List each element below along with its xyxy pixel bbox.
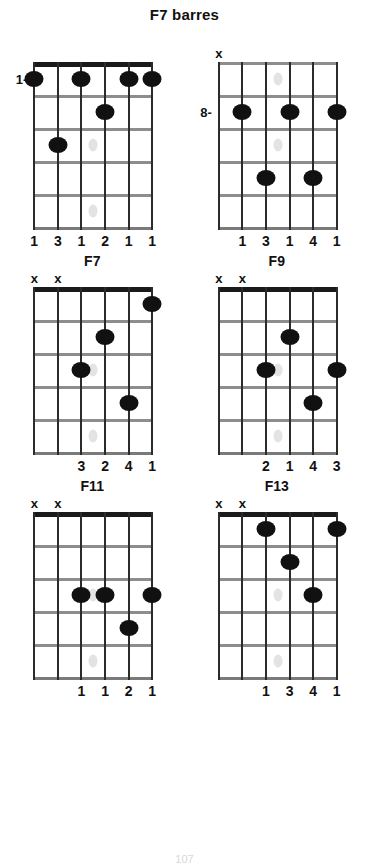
- finger-dot[interactable]: [96, 587, 115, 603]
- finger-number: 2: [125, 681, 133, 701]
- chord-diagram[interactable]: F13xx1341: [185, 476, 369, 701]
- finger-dot[interactable]: [327, 521, 346, 537]
- finger-dot[interactable]: [256, 521, 275, 537]
- chord-diagram[interactable]: 1-131211: [0, 26, 185, 251]
- finger-number: 1: [78, 681, 86, 701]
- finger-dot[interactable]: [72, 587, 91, 603]
- finger-dot[interactable]: [119, 71, 138, 87]
- top-fret-line: [219, 62, 337, 65]
- finger-dot[interactable]: [327, 104, 346, 120]
- finger-number: 4: [125, 456, 133, 476]
- finger-dot[interactable]: [143, 71, 162, 87]
- finger-dot[interactable]: [48, 137, 67, 153]
- finger-number: 2: [262, 456, 270, 476]
- chord-diagram[interactable]: x8-13141: [185, 26, 369, 251]
- muted-string-marker: x: [54, 271, 61, 287]
- fret-line: [219, 128, 337, 131]
- fretboard-wrap: xx1341: [197, 496, 357, 701]
- muted-string-marker: x: [215, 271, 222, 287]
- string-line: [241, 512, 243, 680]
- fret-line: [34, 419, 152, 422]
- nut: [219, 512, 337, 517]
- finger-dot[interactable]: [96, 104, 115, 120]
- finger-dot[interactable]: [119, 395, 138, 411]
- finger-dot[interactable]: [304, 170, 323, 186]
- string-markers: xx: [197, 271, 357, 287]
- string-line: [336, 62, 338, 230]
- fret-line: [34, 677, 152, 680]
- fret-line: [34, 128, 152, 131]
- string-line: [289, 512, 291, 680]
- fret-line: [219, 644, 337, 647]
- finger-dot[interactable]: [72, 362, 91, 378]
- finger-numbers: 3241: [12, 456, 172, 476]
- string-line: [33, 62, 35, 230]
- finger-numbers: 1121: [12, 681, 172, 701]
- chord-row: F11xx1121F13xx1341: [0, 476, 369, 701]
- chord-diagram[interactable]: F7xx3241: [0, 251, 185, 476]
- finger-number: 3: [78, 456, 86, 476]
- finger-numbers: 1341: [197, 681, 357, 701]
- string-line: [241, 287, 243, 455]
- nut: [34, 512, 152, 517]
- finger-number: 1: [148, 681, 156, 701]
- finger-dot[interactable]: [143, 587, 162, 603]
- string-line: [218, 512, 220, 680]
- fret-line: [34, 194, 152, 197]
- finger-dot[interactable]: [143, 296, 162, 312]
- fret-line: [219, 578, 337, 581]
- finger-number: 2: [101, 231, 109, 251]
- fret-inlay-marker: [273, 654, 282, 667]
- fretboard-wrap: 1-131211: [12, 46, 172, 251]
- string-markers: x: [197, 46, 357, 62]
- string-line: [104, 287, 106, 455]
- finger-dot[interactable]: [96, 329, 115, 345]
- chord-diagram[interactable]: F11xx1121: [0, 476, 185, 701]
- finger-dot[interactable]: [256, 362, 275, 378]
- finger-dot[interactable]: [304, 587, 323, 603]
- fret-line: [34, 386, 152, 389]
- finger-dot[interactable]: [327, 362, 346, 378]
- string-markers: xx: [197, 496, 357, 512]
- finger-dot[interactable]: [304, 395, 323, 411]
- page-number: 107: [0, 853, 369, 865]
- finger-number: 4: [309, 681, 317, 701]
- finger-number: 4: [309, 456, 317, 476]
- finger-number: 1: [286, 456, 294, 476]
- string-line: [128, 512, 130, 680]
- chord-diagram[interactable]: F9xx2143: [185, 251, 369, 476]
- fret-inlay-marker: [89, 429, 98, 442]
- string-line: [336, 512, 338, 680]
- string-markers: [12, 46, 172, 62]
- finger-dot[interactable]: [280, 329, 299, 345]
- fret-inlay-marker: [273, 72, 282, 85]
- chord-diagram-sheet: 1-131211 x8-13141F7xx3241F9xx2143F11xx11…: [0, 26, 369, 701]
- string-line: [128, 287, 130, 455]
- fret-line: [219, 227, 337, 230]
- finger-dot[interactable]: [72, 71, 91, 87]
- finger-dot[interactable]: [280, 554, 299, 570]
- fret-line: [34, 161, 152, 164]
- fretboard: [197, 287, 357, 456]
- muted-string-marker: x: [239, 496, 246, 512]
- fret-line: [34, 644, 152, 647]
- fret-line: [34, 95, 152, 98]
- finger-dot[interactable]: [119, 620, 138, 636]
- finger-dot[interactable]: [233, 104, 252, 120]
- fret-line: [34, 227, 152, 230]
- finger-dot[interactable]: [280, 104, 299, 120]
- fretboard: [12, 512, 172, 681]
- finger-numbers: 2143: [197, 456, 357, 476]
- finger-number: 3: [333, 456, 341, 476]
- muted-string-marker: x: [239, 271, 246, 287]
- nut: [34, 62, 152, 67]
- finger-number: 1: [286, 231, 294, 251]
- fret-inlay-marker: [89, 138, 98, 151]
- finger-dot[interactable]: [256, 170, 275, 186]
- fret-inlay-marker: [273, 138, 282, 151]
- fret-line: [219, 677, 337, 680]
- string-line: [218, 62, 220, 230]
- chord-name: F11: [0, 476, 185, 496]
- string-line: [312, 62, 314, 230]
- finger-number: 2: [101, 456, 109, 476]
